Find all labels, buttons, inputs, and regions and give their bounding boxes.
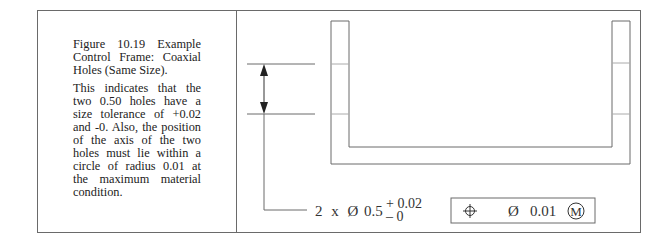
technical-drawing: 2 x Ø 0.5 + 0.02 – 0 Ø 0.01 M	[0, 0, 671, 251]
modifier-letter: M	[570, 204, 582, 219]
size-callout: 2 x Ø 0.5	[315, 203, 383, 219]
part-outline	[331, 21, 630, 164]
leader-line	[264, 114, 307, 210]
arrow-down-icon	[260, 102, 268, 114]
nominal-size: 0.5	[364, 203, 383, 219]
hole-count: 2	[315, 203, 323, 219]
arrow-up-icon	[260, 64, 268, 76]
fcf-diameter-symbol: Ø	[508, 203, 519, 219]
times-symbol: x	[331, 203, 339, 219]
position-icon	[463, 204, 477, 218]
diameter-symbol: Ø	[348, 203, 359, 219]
lower-tolerance: – 0	[385, 209, 404, 224]
mmc-modifier-icon: M	[568, 203, 584, 219]
fcf-tolerance: 0.01	[530, 203, 556, 219]
